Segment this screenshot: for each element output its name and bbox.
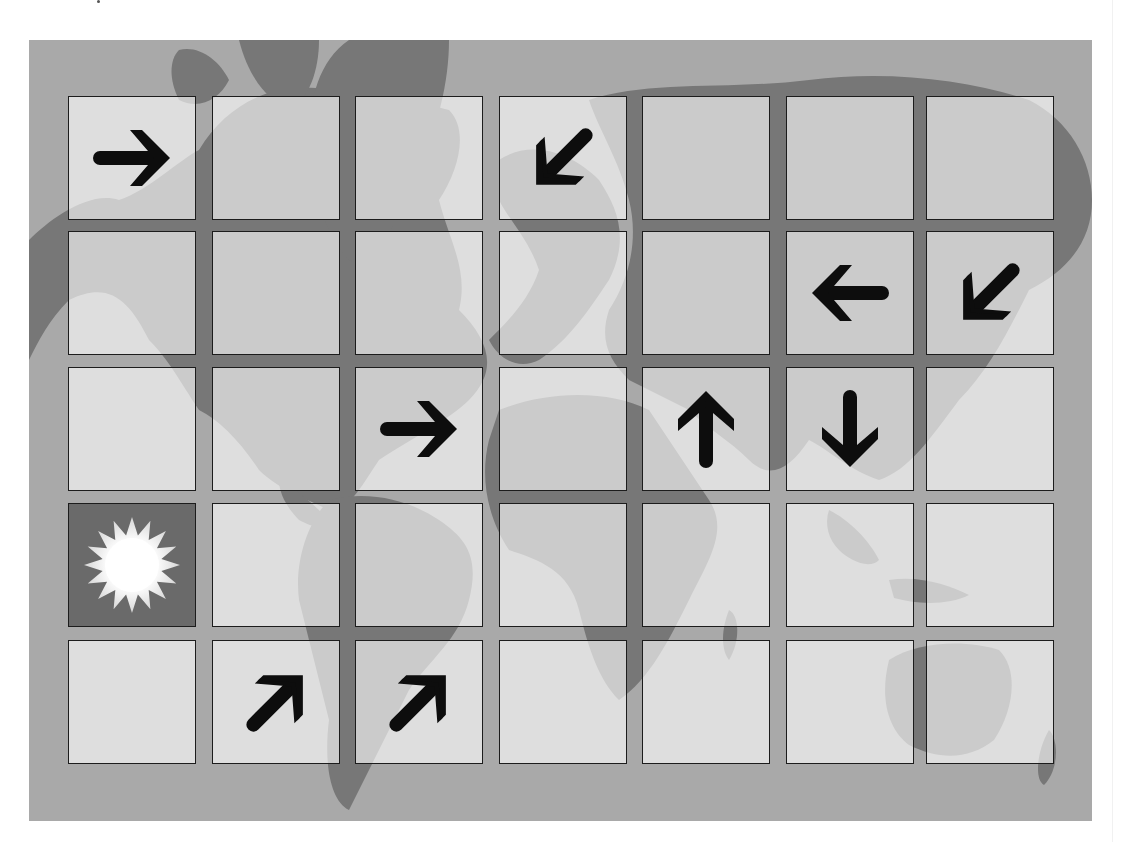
arrow-right-icon [82,108,182,208]
stray-mark [97,0,100,3]
grid-cell-r1-c4[interactable] [642,231,770,355]
grid-cell-r3-c4[interactable] [642,503,770,627]
grid-cell-r0-c6[interactable] [926,96,1054,220]
grid-cell-r2-c2[interactable] [355,367,483,491]
grid-cell-r4-c0[interactable] [68,640,196,764]
grid-cell-r4-c5[interactable] [786,640,914,764]
grid-cell-r4-c6[interactable] [926,640,1054,764]
arrow-down-left-icon [513,108,613,208]
grid-cell-r2-c0[interactable] [68,367,196,491]
grid-cell-r1-c0[interactable] [68,231,196,355]
grid-cell-r1-c1[interactable] [212,231,340,355]
grid-cell-r0-c5[interactable] [786,96,914,220]
grid-cell-r2-c1[interactable] [212,367,340,491]
arrow-up-icon [656,379,756,479]
grid-cell-r0-c4[interactable] [642,96,770,220]
grid-cell-r3-c3[interactable] [499,503,627,627]
grid-cell-r3-c1[interactable] [212,503,340,627]
grid-cell-r4-c2[interactable] [355,640,483,764]
game-board [29,40,1092,821]
grid-cell-r4-c3[interactable] [499,640,627,764]
grid-cell-r4-c4[interactable] [642,640,770,764]
grid-cell-r3-c6[interactable] [926,503,1054,627]
grid-cell-r3-c5[interactable] [786,503,914,627]
grid-cell-r1-c3[interactable] [499,231,627,355]
arrow-down-left-icon [940,243,1040,343]
sun-icon [82,515,182,615]
grid-cell-r2-c5[interactable] [786,367,914,491]
arrow-up-right-icon [369,652,469,752]
arrow-down-icon [800,379,900,479]
grid-cell-r0-c0[interactable] [68,96,196,220]
game-screen [0,0,1123,842]
grid-cell-r3-c0[interactable] [68,503,196,627]
grid-cell-r2-c4[interactable] [642,367,770,491]
grid-cell-r1-c6[interactable] [926,231,1054,355]
grid-cell-r0-c1[interactable] [212,96,340,220]
arrow-left-icon [800,243,900,343]
grid-cell-r2-c3[interactable] [499,367,627,491]
grid-cell-r0-c2[interactable] [355,96,483,220]
grid-cell-r3-c2[interactable] [355,503,483,627]
grid-cell-r2-c6[interactable] [926,367,1054,491]
grid-cell-r1-c5[interactable] [786,231,914,355]
arrow-up-right-icon [226,652,326,752]
page-edge-divider [1112,0,1113,842]
arrow-right-icon [369,379,469,479]
arrow-grid [29,40,1092,821]
grid-cell-r0-c3[interactable] [499,96,627,220]
grid-cell-r1-c2[interactable] [355,231,483,355]
grid-cell-r4-c1[interactable] [212,640,340,764]
